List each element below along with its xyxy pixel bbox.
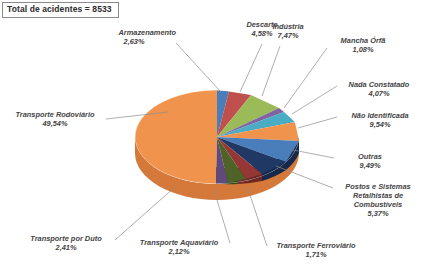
- callout-postos-combustiveis: Postos e Sistemas Retalhistas de Combust…: [333, 182, 423, 218]
- callout-mancha-orfa-value: 1,08%: [327, 45, 399, 54]
- callout-outras-value: 9,49%: [340, 161, 400, 170]
- callout-industria-label: Indústria: [258, 22, 318, 31]
- callout-armazenamento-value: 2,63%: [92, 37, 176, 46]
- callout-transporte-ferroviario: Transporte Ferroviário 1,71%: [266, 241, 366, 259]
- callout-transporte-rodoviario-value: 49,54%: [4, 119, 106, 128]
- callout-nada-constatado: Nada Constatado 4,07%: [336, 80, 422, 98]
- callout-mancha-orfa: Mancha Órfã 1,08%: [327, 36, 399, 54]
- callout-transporte-rodoviario-label: Transporte Rodoviário: [4, 110, 106, 119]
- callout-transporte-rodoviario: Transporte Rodoviário 49,54%: [4, 110, 106, 128]
- callout-postos-value: 5,37%: [333, 209, 423, 218]
- callout-nao-identificada-label: Não Identificada: [338, 111, 422, 120]
- callout-transporte-por-duto-label: Transporte por Duto: [16, 234, 116, 243]
- callout-transporte-ferroviario-value: 1,71%: [266, 250, 366, 259]
- callout-transporte-aquaviario: Transporte Aquaviário 2,12%: [127, 238, 231, 256]
- callout-outras: Outras 9,49%: [340, 152, 400, 170]
- callout-postos-line1: Postos e Sistemas: [333, 182, 423, 191]
- callout-transporte-por-duto: Transporte por Duto 2,41%: [16, 234, 116, 252]
- callout-transporte-aquaviario-label: Transporte Aquaviário: [127, 238, 231, 247]
- callout-nada-constatado-label: Nada Constatado: [336, 80, 422, 89]
- callout-postos-line2: Retalhistas de: [333, 191, 423, 200]
- leader-descarte: [240, 44, 262, 92]
- leader-industria: [262, 46, 280, 96]
- callout-nada-constatado-value: 4,07%: [336, 89, 422, 98]
- leader-outras: [293, 150, 334, 158]
- callout-transporte-ferroviario-label: Transporte Ferroviário: [266, 241, 366, 250]
- callout-armazenamento: Armazenamento 2,63%: [92, 28, 176, 46]
- callout-armazenamento-label: Armazenamento: [92, 28, 176, 37]
- leader-transporte-por-duto: [115, 186, 176, 240]
- pie-chart-figure: Total de acidentes = 8533: [0, 0, 425, 269]
- callout-nao-identificada-value: 9,54%: [338, 120, 422, 129]
- callout-transporte-aquaviario-value: 2,12%: [127, 247, 231, 256]
- callout-nao-identificada: Não Identificada 9,54%: [338, 111, 422, 129]
- callout-outras-label: Outras: [340, 152, 400, 161]
- callout-industria: Indústria 7,47%: [258, 22, 318, 40]
- leader-mancha-orfa: [284, 48, 327, 108]
- callout-industria-value: 7,47%: [258, 31, 318, 40]
- callout-postos-line3: Combustíveis: [333, 200, 423, 209]
- callout-mancha-orfa-label: Mancha Órfã: [327, 36, 399, 45]
- leader-armazenamento: [176, 43, 221, 92]
- leader-nao-identificada: [298, 117, 337, 128]
- leader-nada-constatado: [292, 86, 337, 114]
- callout-transporte-por-duto-value: 2,41%: [16, 243, 116, 252]
- leader-transporte-ferroviario: [247, 186, 267, 246]
